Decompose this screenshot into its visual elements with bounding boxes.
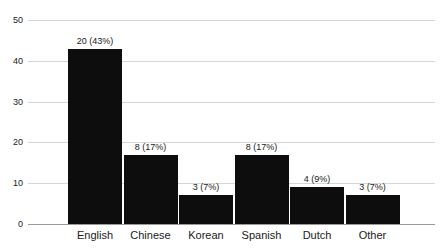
bar[interactable]	[68, 49, 122, 224]
bar-value-label: 4 (9%)	[304, 175, 331, 184]
axis-baseline: 0	[28, 224, 435, 225]
y-axis-tick-label: 30	[13, 97, 23, 106]
bar-group[interactable]: 4 (9%)	[290, 20, 344, 224]
bars: 20 (43%)8 (17%)3 (7%)8 (17%)4 (9%)3 (7%)	[28, 20, 435, 224]
bar[interactable]	[346, 195, 400, 224]
bar-value-label: 20 (43%)	[77, 37, 114, 46]
x-axis-category-label: Other	[340, 228, 406, 242]
bar[interactable]	[179, 195, 233, 224]
y-axis-tick-label: 0	[18, 220, 23, 229]
y-axis-tick-label: 40	[13, 56, 23, 65]
bar-value-label: 3 (7%)	[359, 183, 386, 192]
bar-group[interactable]: 3 (7%)	[179, 20, 233, 224]
bar-chart: 01020304050 20 (43%)8 (17%)3 (7%)8 (17%)…	[0, 0, 445, 248]
bar-group[interactable]: 8 (17%)	[124, 20, 178, 224]
y-axis-tick-label: 10	[13, 179, 23, 188]
bar-value-label: 3 (7%)	[193, 183, 220, 192]
bar-group[interactable]: 3 (7%)	[346, 20, 400, 224]
y-axis-tick-label: 20	[13, 138, 23, 147]
x-axis-labels: EnglishChineseKoreanSpanishDutchOther	[28, 228, 435, 248]
bar[interactable]	[290, 187, 344, 224]
plot-area: 01020304050 20 (43%)8 (17%)3 (7%)8 (17%)…	[28, 20, 435, 224]
bar-value-label: 8 (17%)	[135, 143, 167, 152]
y-axis-tick-label: 50	[13, 16, 23, 25]
bar-group[interactable]: 8 (17%)	[235, 20, 289, 224]
bar[interactable]	[235, 155, 289, 224]
bar-value-label: 8 (17%)	[246, 143, 278, 152]
bar[interactable]	[124, 155, 178, 224]
bar-group[interactable]: 20 (43%)	[68, 20, 122, 224]
